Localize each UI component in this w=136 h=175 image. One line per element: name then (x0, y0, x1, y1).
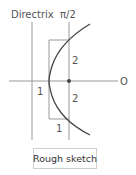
pole-dot (67, 79, 71, 83)
lower-height-label: 2 (72, 93, 78, 104)
upper-height-label: 2 (72, 55, 78, 66)
bottom-width-label: 1 (56, 123, 62, 134)
rough-sketch-button[interactable]: Rough sketch (33, 148, 97, 169)
dist-left-label: 1 (37, 86, 43, 97)
origin-label: O (120, 76, 128, 87)
directrix-label: Directrix (11, 9, 54, 20)
pi-over-2-label: π/2 (60, 9, 76, 20)
